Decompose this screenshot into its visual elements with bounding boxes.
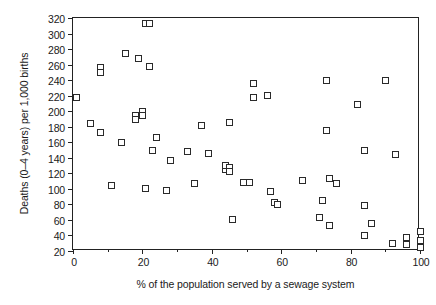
data-point <box>118 139 125 146</box>
y-tick: 240 <box>68 80 73 81</box>
x-axis-label: % of the population served by a sewage s… <box>72 278 419 290</box>
y-tick-label: 160 <box>48 137 65 149</box>
y-tick: 280 <box>68 49 73 50</box>
x-minor-tick <box>385 249 386 252</box>
y-tick-label: 280 <box>48 44 65 56</box>
data-point <box>274 201 281 208</box>
data-point <box>191 180 198 187</box>
data-point <box>146 63 153 70</box>
data-point <box>417 228 424 235</box>
y-tick-label: 240 <box>48 75 65 87</box>
data-point <box>354 101 361 108</box>
y-tick: 60 <box>68 220 73 221</box>
data-point <box>361 202 368 209</box>
data-point <box>167 157 174 164</box>
y-axis-label: Deaths (0–4 years) per 1,000 births <box>18 17 32 250</box>
y-tick: 160 <box>68 142 73 143</box>
data-point <box>73 94 80 101</box>
y-tick-label: 140 <box>48 153 65 165</box>
y-tick: 100 <box>68 189 73 190</box>
y-tick: 40 <box>68 235 73 236</box>
data-point <box>205 150 212 157</box>
data-point <box>153 134 160 141</box>
y-tick-label: 200 <box>48 106 65 118</box>
y-tick-label: 120 <box>48 168 65 180</box>
y-tick-label: 80 <box>54 199 65 211</box>
data-point <box>240 179 247 186</box>
data-point <box>333 180 340 187</box>
data-point <box>382 77 389 84</box>
data-point <box>392 151 399 158</box>
data-point <box>229 216 236 223</box>
y-tick-label: 60 <box>54 215 65 227</box>
data-point <box>319 197 326 204</box>
data-point <box>97 69 104 76</box>
data-point <box>139 112 146 119</box>
y-tick: 300 <box>68 34 73 35</box>
y-tick: 320 <box>68 18 73 19</box>
y-tick-label: 180 <box>48 122 65 134</box>
x-minor-tick <box>316 249 317 252</box>
plot-area: 2040608010012014016018020022024026028030… <box>72 17 419 250</box>
data-point <box>323 77 330 84</box>
y-tick: 200 <box>68 111 73 112</box>
y-tick-label: 260 <box>48 60 65 72</box>
data-point <box>299 177 306 184</box>
data-point <box>403 241 410 248</box>
data-point <box>163 187 170 194</box>
data-point <box>323 127 330 134</box>
x-tick-label: 100 <box>413 256 430 268</box>
data-point <box>264 92 271 99</box>
y-tick: 140 <box>68 158 73 159</box>
data-point <box>250 94 257 101</box>
data-point <box>361 147 368 154</box>
x-minor-tick <box>177 249 178 252</box>
data-point <box>135 55 142 62</box>
data-point <box>389 240 396 247</box>
data-point <box>226 119 233 126</box>
y-tick: 80 <box>68 204 73 205</box>
y-tick: 180 <box>68 127 73 128</box>
x-tick: 20 <box>142 249 143 254</box>
data-point <box>87 120 94 127</box>
x-tick-label: 0 <box>71 256 77 268</box>
x-tick: 80 <box>351 249 352 254</box>
data-point <box>316 214 323 221</box>
x-tick: 0 <box>73 249 74 254</box>
x-minor-tick <box>247 249 248 252</box>
y-tick: 120 <box>68 173 73 174</box>
y-tick-label: 100 <box>48 184 65 196</box>
data-point <box>108 182 115 189</box>
data-point <box>122 50 129 57</box>
y-tick-label: 20 <box>54 246 65 258</box>
y-tick-label: 220 <box>48 91 65 103</box>
data-point <box>184 148 191 155</box>
data-point <box>326 175 333 182</box>
y-tick: 260 <box>68 65 73 66</box>
y-tick-label: 40 <box>54 230 65 242</box>
data-point <box>368 220 375 227</box>
x-tick-label: 80 <box>346 256 357 268</box>
data-point <box>326 222 333 229</box>
x-tick-label: 40 <box>207 256 218 268</box>
x-tick-label: 60 <box>277 256 288 268</box>
data-point <box>142 185 149 192</box>
data-point <box>198 122 205 129</box>
y-tick-label: 300 <box>48 29 65 41</box>
y-tick-label: 320 <box>48 13 65 25</box>
data-point <box>246 179 253 186</box>
data-point <box>417 244 424 251</box>
x-tick: 40 <box>212 249 213 254</box>
data-point <box>361 232 368 239</box>
data-point <box>250 80 257 87</box>
x-minor-tick <box>108 249 109 252</box>
data-point <box>146 20 153 27</box>
data-point <box>149 147 156 154</box>
data-point <box>132 116 139 123</box>
x-tick: 60 <box>281 249 282 254</box>
data-point <box>226 168 233 175</box>
data-point <box>267 188 274 195</box>
x-tick-label: 20 <box>138 256 149 268</box>
data-point <box>97 129 104 136</box>
scatter-plot-figure: 2040608010012014016018020022024026028030… <box>0 0 436 305</box>
